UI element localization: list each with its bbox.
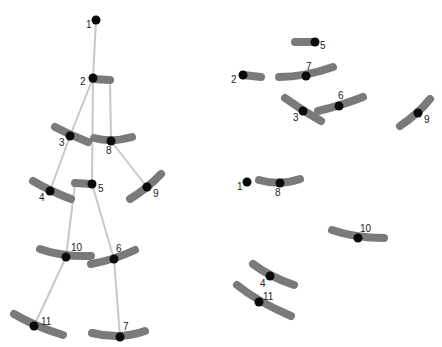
joint-dot-1 (243, 178, 252, 187)
joint-label-3: 3 (293, 112, 299, 123)
bone-line (111, 141, 147, 187)
joint-label-6: 6 (338, 90, 344, 101)
joint-label-3: 3 (59, 137, 65, 148)
bone-line (114, 259, 120, 337)
joint-label-11: 11 (41, 316, 52, 327)
joint-label-1: 1 (237, 181, 243, 192)
joint-dot-3 (299, 107, 308, 116)
right-scatter-joints (239, 38, 423, 307)
bone-line (93, 20, 96, 78)
joint-dot-2 (239, 71, 248, 80)
joint-dot-11 (30, 322, 39, 331)
joint-label-8: 8 (275, 187, 281, 198)
joint-dot-4 (46, 187, 55, 196)
joint-dot-7 (302, 72, 311, 81)
joint-dot-7 (116, 333, 125, 342)
bone-line (92, 184, 114, 259)
joint-label-2: 2 (231, 74, 237, 85)
joint-label-5: 5 (98, 183, 104, 194)
joint-label-4: 4 (260, 278, 266, 289)
joint-label-10: 10 (71, 242, 83, 253)
bone-line (92, 78, 93, 184)
left-skeleton-labels: 1238549106117 (39, 19, 159, 332)
joint-label-9: 9 (424, 114, 430, 125)
joint-label-11: 11 (263, 291, 274, 302)
joint-dot-3 (66, 132, 75, 141)
joint-label-4: 4 (39, 192, 45, 203)
joint-dot-10 (354, 234, 363, 243)
left-skeleton-bones (34, 20, 147, 337)
joint-label-7: 7 (123, 321, 129, 332)
joint-dot-4 (266, 272, 275, 281)
joint-label-9: 9 (153, 188, 159, 199)
left-skeleton-segments (14, 79, 161, 336)
joint-label-6: 6 (116, 243, 122, 254)
joint-dot-5 (311, 38, 320, 47)
joint-dot-5 (88, 180, 97, 189)
joint-dot-9 (414, 109, 423, 118)
joint-dot-10 (62, 253, 71, 262)
joint-label-8: 8 (106, 145, 112, 156)
joint-label-1: 1 (86, 19, 92, 30)
joint-label-2: 2 (80, 76, 86, 87)
left-skeleton-joints (30, 16, 152, 342)
joint-dot-2 (89, 74, 98, 83)
joint-dot-1 (92, 16, 101, 25)
joint-label-5: 5 (320, 40, 326, 51)
pose-diagram: 1238549106117 5273691810411 (0, 0, 442, 347)
joint-dot-6 (110, 255, 119, 264)
joint-label-10: 10 (360, 223, 372, 234)
joint-dot-6 (335, 102, 344, 111)
joint-dot-9 (143, 183, 152, 192)
bone-line (110, 80, 111, 141)
joint-label-7: 7 (306, 61, 312, 72)
